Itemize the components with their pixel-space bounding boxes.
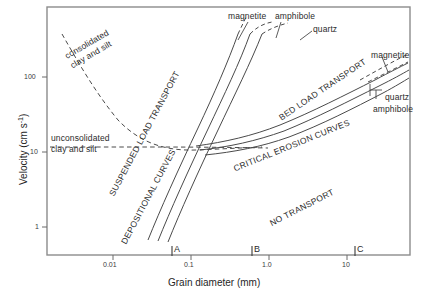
x-tick-label-001: 0.01 bbox=[103, 261, 117, 268]
x-tick-label-10: 1.0 bbox=[262, 261, 272, 268]
label-unconsolidated-clay-silt: unconsolidated clay and silt bbox=[51, 133, 110, 155]
y-tick-label-1: 1 bbox=[35, 223, 39, 230]
annotation-top-magnetite: magnetite bbox=[228, 11, 266, 22]
y-axis-title: Velocity (cm s-1) bbox=[16, 114, 29, 185]
x-tick-label-100: 10 bbox=[342, 261, 350, 268]
annotation-top-quartz: quartz bbox=[313, 24, 337, 35]
annotation-top-amphibole: amphibole bbox=[275, 11, 315, 22]
y-axis-title-exponent: -1 bbox=[16, 117, 25, 123]
y-axis-title-text: Velocity (cm s bbox=[18, 123, 29, 185]
label-unconsolidated-line2: clay and silt bbox=[51, 144, 110, 155]
annotation-right-magnetite: magnetite bbox=[371, 50, 409, 61]
x-axis-ticks bbox=[113, 255, 347, 260]
x-marker-label-b: B bbox=[254, 244, 260, 254]
y-axis-title-close: ) bbox=[18, 114, 29, 117]
curve-depositional-amphibole-ext bbox=[250, 22, 272, 34]
x-marker-label-c: C bbox=[357, 244, 364, 254]
label-unconsolidated-line1: unconsolidated bbox=[51, 133, 110, 144]
curve-depositional-amphibole bbox=[158, 34, 250, 241]
y-axis-ticks bbox=[42, 77, 47, 227]
y-tick-label-100: 100 bbox=[24, 73, 36, 80]
curve-depositional-magnetite bbox=[148, 34, 238, 240]
x-marker-label-a: A bbox=[174, 244, 180, 254]
x-axis-title: Grain diameter (mm) bbox=[168, 277, 260, 288]
curve-depositional-quartz bbox=[168, 34, 262, 242]
y-tick-label-10: 10 bbox=[30, 148, 38, 155]
x-tick-label-01: 0.1 bbox=[184, 261, 194, 268]
annotation-right-amphibole: amphibole bbox=[373, 104, 413, 115]
annotation-right-quartz: quartz bbox=[385, 92, 409, 103]
chart-figure: Velocity (cm s-1) Grain diameter (mm) 10… bbox=[0, 0, 424, 297]
curve-depositional-quartz-ext bbox=[262, 23, 288, 34]
